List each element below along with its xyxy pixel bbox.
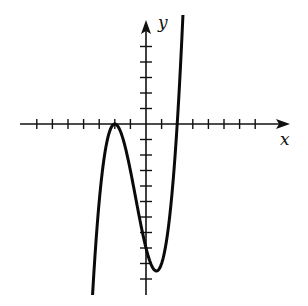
- x-axis-label: x: [280, 129, 290, 149]
- function-curve: [92, 0, 186, 302]
- x-axis: [20, 119, 290, 129]
- y-axis-label: y: [157, 12, 168, 32]
- cubic-function-graph: x y: [0, 0, 308, 306]
